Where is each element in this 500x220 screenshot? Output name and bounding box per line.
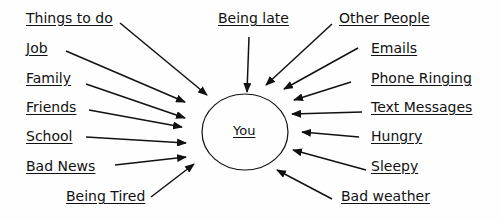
label-family: Family [26,70,71,86]
label-hungry: Hungry [371,128,422,144]
label-things-to-do: Things to do [26,10,113,26]
arrow-school [86,137,186,143]
label-bad-news: Bad News [26,158,95,174]
arrow-hungry [302,132,359,137]
center-label-you: You [233,123,255,139]
label-text-messages: Text Messages [371,99,472,115]
label-school: School [26,128,72,144]
arrow-job [66,51,185,102]
label-emails: Emails [371,40,417,56]
arrow-phone-ringing [294,82,351,100]
label-sleepy: Sleepy [371,158,418,174]
label-other-people: Other People [339,10,430,26]
arrow-text-messages [292,112,362,114]
label-friends: Friends [26,99,76,115]
arrow-bad-weather [277,170,332,199]
stress-diagram: Things to doJobFamilyFriendsSchoolBad Ne… [0,0,500,220]
label-phone-ringing: Phone Ringing [371,70,472,86]
arrow-being-tired [151,164,194,197]
arrow-things-to-do [120,23,207,95]
label-being-tired: Being Tired [66,188,145,204]
arrow-bad-news [115,157,186,165]
arrow-being-late [247,37,249,92]
label-being-late: Being late [218,10,289,26]
arrow-sleepy [293,150,366,170]
label-bad-weather: Bad weather [341,188,430,204]
label-job: Job [26,40,48,56]
arrow-other-people [266,24,332,85]
